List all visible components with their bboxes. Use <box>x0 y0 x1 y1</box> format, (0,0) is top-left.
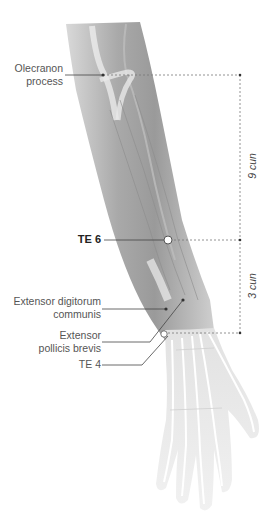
te6-label: TE 6 <box>78 233 101 246</box>
hand-bones <box>156 328 259 510</box>
te6-point-marker <box>164 236 172 244</box>
extensor-pollicis-label: Extensor pollicis brevis <box>39 329 101 355</box>
three-cun-label: 3 cun <box>246 266 258 306</box>
te4-label: TE 4 <box>79 358 101 371</box>
forearm-muscles <box>66 22 214 341</box>
extensor-digitorum-label: Extensor digitorum communis <box>13 295 101 321</box>
forearm-acupoint-diagram: Olecranon process TE 6 Extensor digitoru… <box>0 0 277 519</box>
olecranon-label: Olecranon process <box>15 62 63 88</box>
te4-point-marker <box>161 331 167 337</box>
nine-cun-label: 9 cun <box>246 146 258 186</box>
